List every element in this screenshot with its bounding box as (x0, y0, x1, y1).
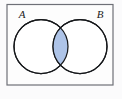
set-label-b: B (97, 8, 104, 20)
venn-diagram-figure: A B (0, 0, 122, 99)
set-label-a: A (18, 8, 26, 20)
venn-diagram-canvas: A B (0, 0, 122, 99)
